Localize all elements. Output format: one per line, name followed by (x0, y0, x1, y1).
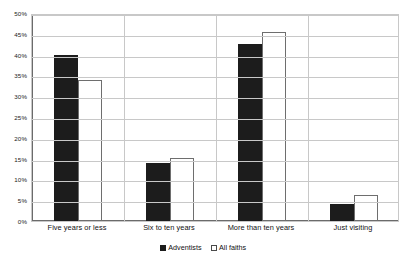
x-tick-label: More than ten years (228, 224, 295, 231)
y-tick-label: 50% (14, 11, 27, 17)
gridline (32, 140, 398, 141)
x-tick-label: Five years or less (48, 224, 107, 231)
bar-adventists-more-than-ten-years (238, 44, 262, 221)
y-tick-label: 20% (14, 136, 27, 142)
y-tick-label: 45% (14, 32, 27, 38)
gridline (32, 98, 398, 99)
gridline (32, 202, 398, 203)
bar-all-faiths-six-to-ten-years (170, 158, 194, 221)
y-tick-label: 0% (18, 219, 27, 225)
bar-adventists-six-to-ten-years (146, 163, 170, 221)
legend-item-all-faiths[interactable]: All faiths (211, 244, 247, 251)
y-tick-label: 10% (14, 177, 27, 183)
gridline (32, 77, 398, 78)
y-tick-label: 40% (14, 52, 27, 58)
gridline (32, 181, 398, 182)
gridline (32, 36, 398, 37)
category-divider (124, 15, 125, 221)
legend-swatch-icon (211, 245, 217, 251)
legend-item-adventists[interactable]: Adventists (160, 244, 202, 251)
y-tick-label: 30% (14, 94, 27, 100)
gridline (32, 119, 398, 120)
gridline (32, 161, 398, 162)
bar-all-faiths-more-than-ten-years (262, 32, 286, 221)
x-axis-category-labels: Five years or lessSix to ten yearsMore t… (31, 224, 399, 240)
legend-label: Adventists (168, 244, 201, 251)
gridline (32, 57, 398, 58)
bar-all-faiths-just-visiting (354, 195, 378, 221)
chart-legend: AdventistsAll faiths (0, 244, 406, 251)
y-tick-label: 25% (14, 115, 27, 121)
y-axis-tick-labels: 50%45%40%35%30%25%20%15%10%5%0% (0, 0, 30, 259)
bar-all-faiths-five-years-or-less (78, 80, 102, 221)
y-tick-label: 35% (14, 73, 27, 79)
category-divider (308, 15, 309, 221)
bars-layer (32, 15, 398, 221)
plot-area (31, 14, 399, 222)
x-tick-label: Just visiting (334, 224, 373, 231)
x-tick-label: Six to ten years (143, 224, 195, 231)
y-tick-label: 15% (14, 156, 27, 162)
bar-chart: 50%45%40%35%30%25%20%15%10%5%0% Five yea… (0, 0, 406, 259)
legend-label: All faiths (219, 244, 246, 251)
legend-swatch-icon (160, 245, 166, 251)
bar-adventists-just-visiting (330, 204, 354, 221)
gridline (32, 15, 398, 16)
bar-adventists-five-years-or-less (54, 55, 78, 221)
category-divider (216, 15, 217, 221)
y-tick-label: 5% (18, 198, 27, 204)
